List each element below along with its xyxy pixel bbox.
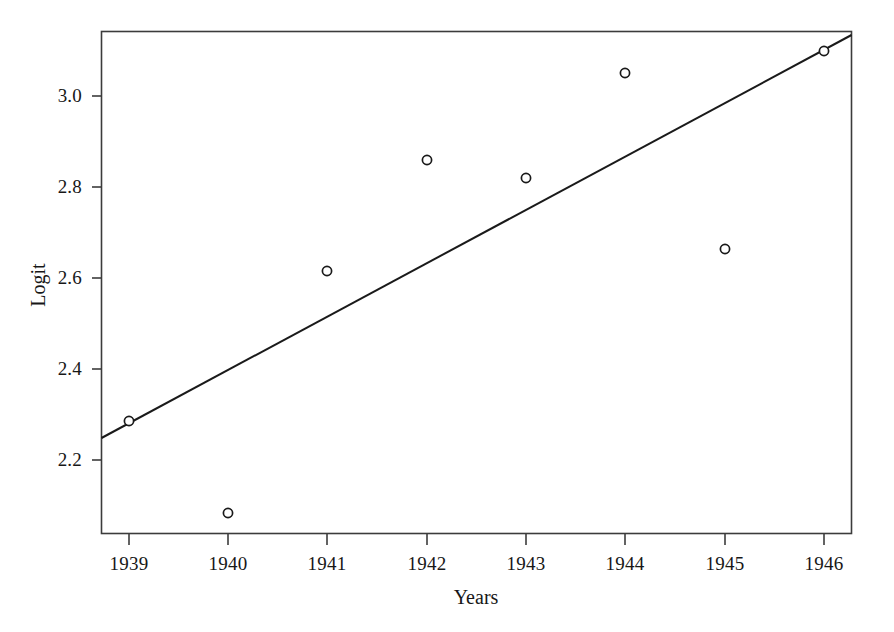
- y-tick-label-2.8: 2.8: [22, 176, 82, 198]
- data-point-1946: [819, 46, 828, 55]
- data-point-1944: [620, 68, 629, 77]
- y-tick-label-2.2: 2.2: [22, 449, 82, 471]
- data-point-1939: [124, 416, 133, 425]
- x-tick-label-1944: 1944: [606, 553, 645, 575]
- x-axis-ticks: [129, 534, 824, 546]
- x-axis-title: Years: [454, 586, 499, 609]
- x-tick-label-1943: 1943: [507, 553, 546, 575]
- x-tick-label-1946: 1946: [805, 553, 844, 575]
- plot-canvas: [0, 0, 894, 632]
- data-point-1942: [422, 155, 431, 164]
- y-tick-label-2.4: 2.4: [22, 358, 82, 380]
- x-tick-label-1941: 1941: [308, 553, 347, 575]
- y-axis-title: Logit: [27, 263, 50, 306]
- x-tick-label-1939: 1939: [110, 553, 149, 575]
- x-tick-label-1942: 1942: [408, 553, 447, 575]
- y-tick-label-3.0: 3.0: [22, 85, 82, 107]
- data-point-1941: [322, 266, 331, 275]
- plot-frame: [102, 32, 852, 534]
- chart-figure: 3.0 2.8 2.6 2.4 2.2 1939 1940 1941 1942 …: [0, 0, 894, 632]
- data-point-1940: [223, 508, 232, 517]
- data-point-1943: [521, 173, 530, 182]
- data-point-1945: [720, 244, 729, 253]
- x-tick-label-1940: 1940: [209, 553, 248, 575]
- y-axis-ticks: [92, 96, 102, 460]
- x-tick-label-1945: 1945: [706, 553, 745, 575]
